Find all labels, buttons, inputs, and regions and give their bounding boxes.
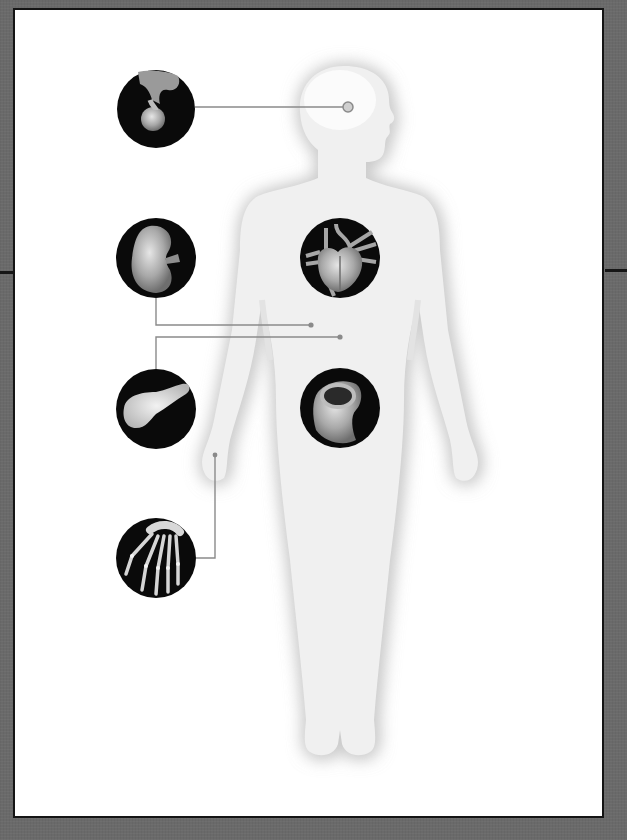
frame-tick-right	[605, 269, 627, 272]
callout-hand-skeleton	[116, 518, 196, 598]
callout-pituitary-gland	[117, 70, 195, 148]
kidney-target-dot	[308, 322, 313, 327]
brain-highlight	[304, 70, 376, 130]
diagram-panel	[13, 8, 604, 818]
callout-kidney	[116, 218, 196, 298]
callout-pancreas	[116, 369, 196, 449]
pancreas-target-dot	[337, 334, 342, 339]
hand-target-dot	[213, 453, 218, 458]
pituitary-target-dot	[343, 102, 353, 112]
pituitary-icon	[141, 107, 165, 131]
frame-tick-left	[0, 271, 14, 274]
intestine-lumen-icon	[322, 385, 354, 407]
anatomy-diagram	[13, 8, 604, 818]
callout-intestine	[300, 368, 380, 448]
callout-heart	[300, 218, 380, 298]
